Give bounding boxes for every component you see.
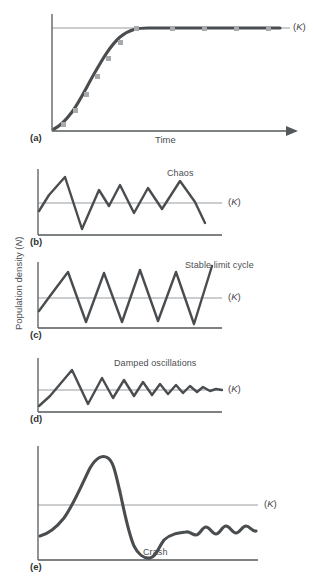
panel-b-id: (b) bbox=[30, 236, 42, 247]
panel-b-chaos: (K) Chaos (b) bbox=[30, 165, 313, 255]
population-dynamics-figure: Population density (N) (K) bbox=[0, 0, 313, 586]
panel-a-id: (a) bbox=[30, 132, 42, 143]
panel-a-x-axis-arrow bbox=[286, 126, 298, 136]
panel-d-annotation: Damped oscillations bbox=[114, 358, 196, 368]
panel-c-annotation: Stable limit cycle bbox=[185, 260, 254, 270]
panel-a-x-axis-title: Time bbox=[155, 134, 176, 145]
panel-d-k-label: (K) bbox=[228, 383, 241, 394]
panel-a-k-label: (K) bbox=[293, 21, 306, 32]
panel-a-plot bbox=[30, 8, 313, 148]
panel-a-logistic-growth: (K) (a) Time bbox=[30, 8, 313, 153]
panel-e-id: (e) bbox=[30, 561, 42, 572]
panel-c-plot bbox=[30, 258, 313, 336]
panel-e-annotation: Crash bbox=[143, 547, 168, 557]
panel-e-crash-recovery: (K) Crash (e) bbox=[30, 440, 313, 580]
panel-d-id: (d) bbox=[30, 413, 42, 424]
panel-a-growth-curve bbox=[54, 28, 280, 129]
panel-c-k-label: (K) bbox=[228, 291, 241, 302]
panel-b-annotation: Chaos bbox=[167, 168, 194, 178]
panel-d-damped-curve bbox=[39, 370, 222, 406]
panel-e-crash-curve bbox=[40, 456, 256, 558]
panel-c-stable-limit-cycle: (K) Stable limit cycle (c) bbox=[30, 258, 313, 348]
panel-c-limit-cycle-curve bbox=[39, 266, 212, 324]
panel-d-damped-oscillations: (K) Damped oscillations (d) bbox=[30, 352, 313, 437]
panel-b-k-label: (K) bbox=[228, 196, 241, 207]
panel-e-k-label: (K) bbox=[264, 498, 277, 509]
panel-c-id: (c) bbox=[30, 329, 42, 340]
y-axis-label: Population density (N) bbox=[13, 237, 24, 331]
